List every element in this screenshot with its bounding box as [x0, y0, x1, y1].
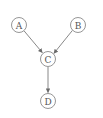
- dag-diagram: A B C D: [0, 0, 103, 118]
- node-d-label: D: [44, 97, 51, 107]
- node-c-label: C: [45, 55, 52, 65]
- node-d: D: [41, 94, 56, 109]
- node-a-label: A: [15, 21, 23, 31]
- node-b: B: [71, 18, 86, 33]
- edge-b-to-c: [54, 30, 73, 53]
- node-c: C: [41, 52, 56, 67]
- node-b-label: B: [75, 21, 82, 31]
- edge-a-to-c: [24, 31, 42, 53]
- node-a: A: [12, 18, 27, 33]
